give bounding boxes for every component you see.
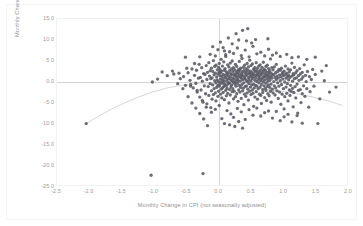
data-point (303, 95, 306, 98)
data-point (214, 91, 217, 94)
data-point (276, 81, 279, 84)
data-point (189, 85, 192, 88)
data-point (233, 90, 236, 93)
x-tick-label: 0.5 (236, 188, 266, 194)
data-point (225, 109, 228, 112)
data-point (210, 89, 213, 92)
data-point (201, 80, 204, 83)
data-point (232, 116, 235, 119)
data-point (310, 78, 313, 81)
data-point (241, 29, 244, 32)
data-point (182, 75, 185, 78)
data-point (214, 99, 217, 102)
data-point (215, 75, 218, 78)
data-point (254, 38, 257, 41)
data-point (308, 90, 311, 93)
data-point (251, 114, 254, 117)
data-point (211, 83, 214, 86)
data-point (171, 69, 174, 72)
data-point (269, 57, 272, 60)
data-point (334, 85, 337, 88)
data-point (237, 38, 240, 41)
data-point (295, 69, 298, 72)
data-point (214, 54, 217, 57)
data-point (267, 48, 270, 51)
data-point (203, 84, 206, 87)
data-point (176, 82, 179, 85)
x-tick-label: -2.0 (73, 188, 103, 194)
data-point (275, 51, 278, 54)
data-point (262, 61, 265, 64)
data-point (273, 93, 276, 96)
y-tick-label: 15.0 (8, 15, 54, 21)
data-point (305, 58, 308, 61)
data-point (281, 93, 284, 96)
x-axis-tick-labels: -2.5-2.0-1.5-1.0-0.50.00.51.01.52.0 (56, 188, 348, 198)
data-point (194, 106, 197, 109)
data-point (281, 77, 284, 80)
data-point (227, 36, 230, 39)
data-point (166, 74, 169, 77)
data-point (250, 41, 253, 44)
data-point (227, 65, 230, 68)
data-point (298, 67, 301, 70)
data-point (234, 95, 237, 98)
data-point (223, 49, 226, 52)
data-point (282, 107, 285, 110)
data-point (301, 122, 304, 125)
y-tick-label: -15.0 (8, 141, 54, 147)
data-point (285, 53, 288, 56)
data-point (275, 110, 278, 113)
y-tick-label: 0.0 (8, 78, 54, 84)
data-point (263, 111, 266, 114)
data-point (221, 46, 224, 49)
data-point (297, 55, 300, 58)
data-point (325, 64, 328, 67)
data-point (247, 108, 250, 111)
data-point (295, 82, 298, 85)
data-point (194, 82, 197, 85)
data-point (252, 105, 255, 108)
data-point (240, 110, 243, 113)
data-point (233, 125, 236, 128)
data-point (220, 58, 223, 61)
data-point (85, 122, 88, 125)
data-point (193, 74, 196, 77)
data-point (214, 108, 217, 111)
data-point (302, 84, 305, 87)
data-point (251, 92, 254, 95)
data-point (185, 66, 188, 69)
data-point (201, 99, 204, 102)
data-point (238, 60, 241, 63)
data-point (199, 76, 202, 79)
data-point (204, 92, 207, 95)
data-point (244, 95, 247, 98)
data-point (253, 95, 256, 98)
data-point (290, 61, 293, 64)
data-point (266, 37, 269, 40)
data-point (190, 67, 193, 70)
data-point (277, 97, 280, 100)
data-point (235, 92, 238, 95)
data-point (308, 75, 311, 78)
x-tick-label: 0.0 (203, 188, 233, 194)
data-point (231, 42, 234, 45)
data-point (314, 56, 317, 59)
data-point (228, 123, 231, 126)
data-point (198, 112, 201, 115)
data-point (184, 84, 187, 87)
data-point (149, 174, 152, 177)
data-points-layer (57, 19, 349, 187)
data-point (205, 102, 208, 105)
data-point (160, 70, 163, 73)
scatter-chart: Monthly Change in Share prices 15.010.05… (0, 0, 363, 226)
data-point (223, 67, 226, 70)
data-point (292, 105, 295, 108)
x-tick-label: -1.5 (106, 188, 136, 194)
data-point (271, 68, 274, 71)
data-point (295, 114, 298, 117)
x-tick-label: 1.5 (301, 188, 331, 194)
data-point (290, 56, 293, 59)
data-point (251, 45, 254, 48)
y-tick-label: -10.0 (8, 120, 54, 126)
